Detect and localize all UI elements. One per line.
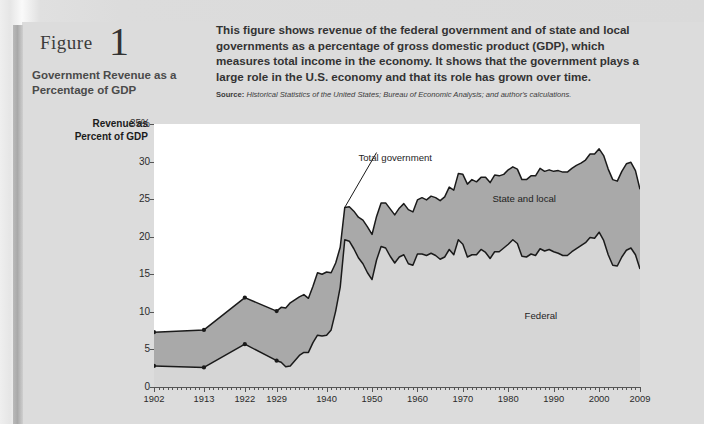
x-tick-label: 1950 bbox=[352, 393, 392, 404]
x-tick-mark bbox=[322, 387, 323, 390]
x-tick-mark bbox=[236, 387, 237, 390]
x-tick-label: 1970 bbox=[443, 393, 483, 404]
x-tick-label: 1940 bbox=[307, 393, 347, 404]
x-tick-mark bbox=[358, 387, 359, 390]
x-tick-mark bbox=[531, 387, 532, 390]
x-tick-mark bbox=[336, 387, 337, 390]
source-label: Source: bbox=[216, 90, 244, 99]
x-tick-mark bbox=[536, 387, 537, 390]
x-tick-mark bbox=[576, 387, 577, 390]
chart-plot-area: Total government State and local Federal bbox=[154, 124, 640, 387]
x-tick-mark bbox=[299, 387, 300, 390]
x-tick-label: 1960 bbox=[397, 393, 437, 404]
x-tick-mark bbox=[599, 387, 600, 392]
y-tick-label: 25 bbox=[110, 193, 150, 204]
x-tick-mark bbox=[626, 387, 627, 390]
figure-source: Source: Historical Statistics of the Uni… bbox=[216, 90, 656, 99]
x-tick-mark bbox=[245, 387, 246, 392]
x-tick-mark bbox=[486, 387, 487, 390]
x-tick-mark bbox=[227, 387, 228, 390]
x-tick-mark bbox=[295, 387, 296, 390]
y-tick-label: 30 bbox=[110, 156, 150, 167]
y-tick-label: 20 bbox=[110, 231, 150, 242]
x-tick-label: 2009 bbox=[620, 393, 660, 404]
x-tick-mark bbox=[481, 387, 482, 390]
x-tick-mark bbox=[268, 387, 269, 390]
x-tick-mark bbox=[263, 387, 264, 390]
x-tick-mark bbox=[640, 387, 641, 392]
annotation-state-and-local: State and local bbox=[492, 193, 555, 204]
x-tick-mark bbox=[522, 387, 523, 390]
x-tick-mark bbox=[445, 387, 446, 390]
x-tick-mark bbox=[517, 387, 518, 390]
x-tick-label: 2000 bbox=[579, 393, 619, 404]
x-tick-mark bbox=[386, 387, 387, 390]
x-tick-mark bbox=[513, 387, 514, 390]
x-tick-mark bbox=[581, 387, 582, 390]
x-tick-mark bbox=[590, 387, 591, 390]
x-tick-label: 1902 bbox=[134, 393, 174, 404]
x-tick-mark bbox=[195, 387, 196, 390]
x-tick-mark bbox=[440, 387, 441, 390]
x-tick-mark bbox=[458, 387, 459, 390]
x-tick-label: 1929 bbox=[257, 393, 297, 404]
x-tick-mark bbox=[258, 387, 259, 390]
x-tick-mark bbox=[372, 387, 373, 392]
x-tick-mark bbox=[313, 387, 314, 390]
x-tick-label: 1990 bbox=[534, 393, 574, 404]
x-tick-mark bbox=[413, 387, 414, 390]
x-tick-mark bbox=[463, 387, 464, 392]
x-tick-mark bbox=[154, 387, 155, 392]
x-tick-mark bbox=[286, 387, 287, 390]
x-tick-mark bbox=[631, 387, 632, 390]
x-tick-mark bbox=[209, 387, 210, 390]
x-tick-label: 1913 bbox=[184, 393, 224, 404]
x-tick-mark bbox=[472, 387, 473, 390]
page-spine bbox=[13, 25, 23, 424]
x-tick-mark bbox=[345, 387, 346, 390]
x-tick-mark bbox=[186, 387, 187, 390]
x-tick-mark bbox=[504, 387, 505, 390]
x-tick-mark bbox=[168, 387, 169, 390]
x-tick-mark bbox=[340, 387, 341, 390]
x-tick-mark bbox=[163, 387, 164, 390]
x-tick-mark bbox=[290, 387, 291, 390]
x-tick-mark bbox=[422, 387, 423, 390]
x-tick-mark bbox=[304, 387, 305, 390]
x-tick-mark bbox=[281, 387, 282, 390]
x-tick-mark bbox=[177, 387, 178, 390]
x-tick-mark bbox=[199, 387, 200, 390]
x-tick-mark bbox=[540, 387, 541, 390]
x-tick-mark bbox=[408, 387, 409, 390]
x-tick-mark bbox=[436, 387, 437, 390]
x-tick-mark bbox=[490, 387, 491, 390]
x-tick-mark bbox=[449, 387, 450, 390]
x-tick-mark bbox=[190, 387, 191, 390]
x-tick-mark bbox=[617, 387, 618, 390]
annotation-total-government: Total government bbox=[358, 152, 432, 163]
x-tick-mark bbox=[563, 387, 564, 390]
x-tick-mark bbox=[318, 387, 319, 390]
x-tick-mark bbox=[181, 387, 182, 390]
x-tick-mark bbox=[249, 387, 250, 390]
x-tick-mark bbox=[204, 387, 205, 392]
revenue-area-chart bbox=[154, 124, 640, 387]
x-tick-mark bbox=[404, 387, 405, 390]
x-tick-mark bbox=[327, 387, 328, 392]
x-tick-mark bbox=[222, 387, 223, 390]
x-tick-mark bbox=[622, 387, 623, 390]
x-tick-mark bbox=[381, 387, 382, 390]
x-tick-mark bbox=[427, 387, 428, 390]
x-tick-mark bbox=[567, 387, 568, 390]
x-tick-mark bbox=[240, 387, 241, 390]
x-tick-mark bbox=[431, 387, 432, 390]
x-tick-mark bbox=[231, 387, 232, 390]
y-tick-label: 15 bbox=[110, 268, 150, 279]
x-tick-mark bbox=[363, 387, 364, 390]
x-tick-mark bbox=[354, 387, 355, 390]
x-tick-mark bbox=[613, 387, 614, 390]
x-tick-mark bbox=[377, 387, 378, 390]
x-tick-mark bbox=[572, 387, 573, 390]
x-tick-mark bbox=[308, 387, 309, 390]
x-tick-mark bbox=[390, 387, 391, 390]
